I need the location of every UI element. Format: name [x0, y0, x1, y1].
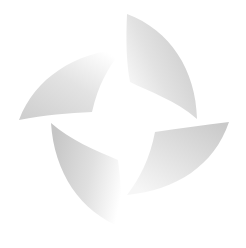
blade-right — [127, 122, 229, 195]
blade-bottom — [51, 123, 123, 228]
pinwheel-logo — [0, 0, 246, 248]
blade-top — [126, 14, 197, 119]
blade-left — [19, 49, 124, 120]
